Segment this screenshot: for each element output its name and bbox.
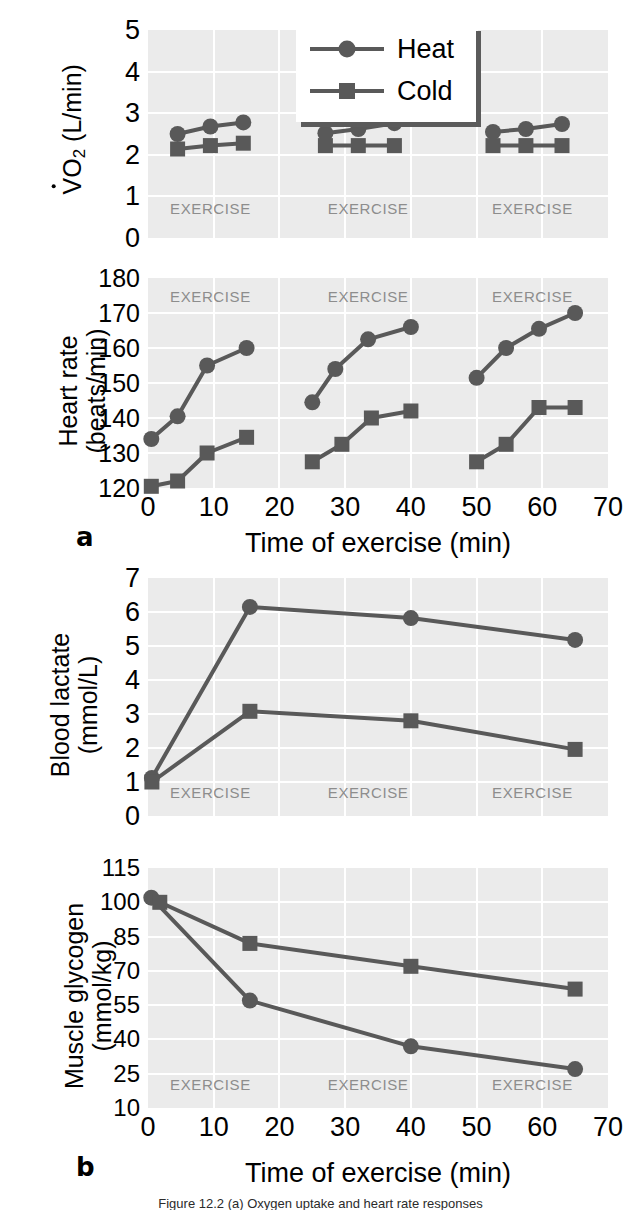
series-layer-muscle-glycogen <box>0 0 641 1210</box>
legend-label-heat: Heat <box>397 34 454 65</box>
legend: Heat Cold <box>296 26 476 122</box>
data-point-circle-marker-icon <box>567 1061 583 1077</box>
legend-label-cold: Cold <box>397 76 453 107</box>
xaxis-label-b: Time of exercise (min) <box>148 1158 608 1189</box>
data-point-square-marker-icon <box>403 959 418 974</box>
legend-line-cold <box>310 89 384 93</box>
panel-letter-b: b <box>76 1152 95 1182</box>
data-point-square-marker-icon <box>152 895 167 910</box>
figure-root: 012345VO2 (L/min)EXERCISEEXERCISEEXERCIS… <box>0 0 641 1210</box>
data-point-square-marker-icon <box>242 936 257 951</box>
data-point-circle-marker-icon <box>403 1038 419 1054</box>
legend-entry-cold: Cold <box>310 78 453 104</box>
square-marker-icon <box>339 83 355 99</box>
data-point-square-marker-icon <box>568 982 583 997</box>
series-line-cold <box>160 902 575 989</box>
figure-caption: Figure 12.2 (a) Oxygen uptake and heart … <box>0 1196 641 1210</box>
legend-entry-heat: Heat <box>310 36 454 62</box>
panel-letter-a: a <box>76 522 94 552</box>
xaxis-label-a: Time of exercise (min) <box>148 528 608 559</box>
legend-line-heat <box>310 47 384 51</box>
series-line-heat <box>151 898 575 1069</box>
chart-panel-muscle-glycogen: 102540557085100115010203040506070Muscle … <box>0 0 641 1210</box>
data-point-circle-marker-icon <box>242 993 258 1009</box>
circle-marker-icon <box>339 41 356 58</box>
